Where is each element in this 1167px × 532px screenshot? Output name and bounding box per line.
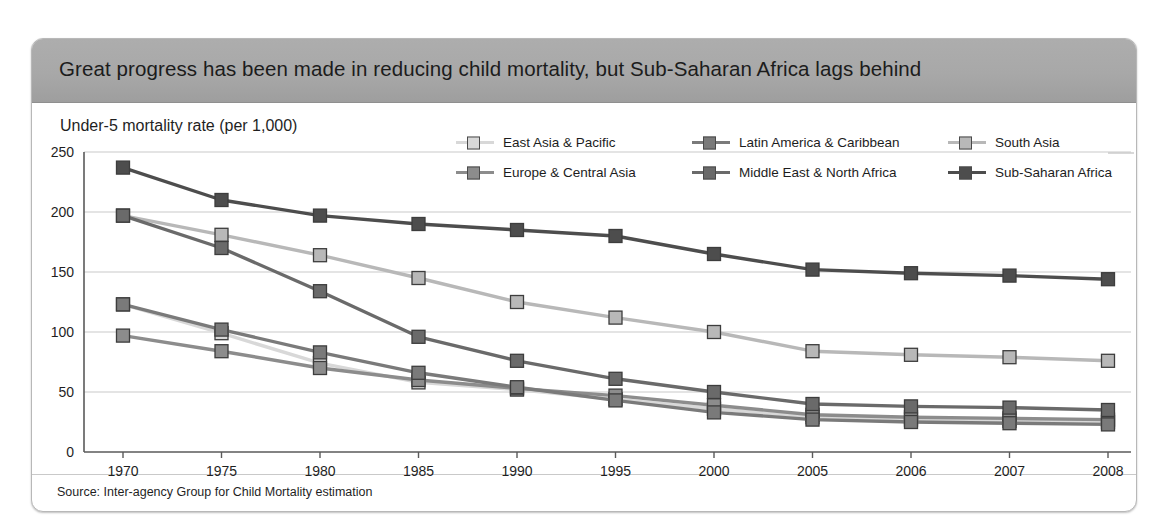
legend-line-swatch (948, 141, 986, 144)
legend-marker-icon (703, 166, 716, 179)
legend-item-latin-america-caribbean[interactable]: Latin America & Caribbean (692, 135, 900, 150)
source-divider (32, 474, 1136, 475)
legend-item-east-asia-pacific[interactable]: East Asia & Pacific (456, 135, 616, 150)
chart-title-bar: Great progress has been made in reducing… (32, 39, 1136, 103)
legend-line-swatch (948, 171, 986, 174)
chart-legend: East Asia & PacificEurope & Central Asia… (456, 135, 1116, 191)
legend-marker-icon (467, 166, 480, 179)
legend-item-label: South Asia (995, 135, 1060, 150)
legend-item-label: Latin America & Caribbean (739, 135, 900, 150)
legend-item-europe-central-asia[interactable]: Europe & Central Asia (456, 165, 636, 180)
source-note: Source: Inter-agency Group for Child Mor… (57, 485, 372, 499)
legend-line-swatch (456, 171, 494, 174)
legend-marker-icon (959, 166, 972, 179)
legend-item-label: Europe & Central Asia (503, 165, 636, 180)
stray-line-mark (1108, 152, 1134, 154)
legend-line-swatch (456, 141, 494, 144)
legend-marker-icon (959, 136, 972, 149)
legend-item-sub-saharan-africa[interactable]: Sub-Saharan Africa (948, 165, 1112, 180)
legend-item-label: Sub-Saharan Africa (995, 165, 1112, 180)
y-axis-title: Under-5 mortality rate (per 1,000) (60, 117, 297, 135)
legend-item-label: Middle East & North Africa (739, 165, 897, 180)
legend-marker-icon (703, 136, 716, 149)
chart-title: Great progress has been made in reducing… (59, 57, 921, 81)
legend-line-swatch (692, 171, 730, 174)
legend-item-middle-east-north-africa[interactable]: Middle East & North Africa (692, 165, 897, 180)
legend-item-south-asia[interactable]: South Asia (948, 135, 1060, 150)
legend-line-swatch (692, 141, 730, 144)
legend-item-label: East Asia & Pacific (503, 135, 616, 150)
chart-card: Great progress has been made in reducing… (31, 38, 1137, 512)
legend-marker-icon (467, 136, 480, 149)
screenshot-root: Great progress has been made in reducing… (0, 0, 1167, 532)
